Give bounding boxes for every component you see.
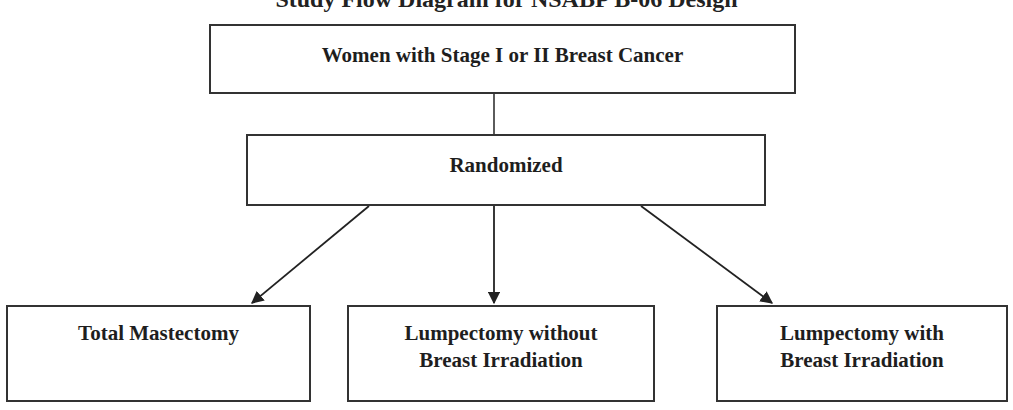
- edge-arrow-arm1: [252, 206, 369, 303]
- node-arm3-line2: Breast Irradiation: [780, 347, 944, 374]
- node-randomized-label: Randomized: [449, 152, 562, 179]
- node-arm-lumpectomy-without-irradiation: Lumpectomy without Breast Irradiation: [347, 305, 655, 402]
- edge-arrow-arm3: [641, 206, 772, 303]
- node-population: Women with Stage I or II Breast Cancer: [209, 24, 796, 94]
- node-arm1-line1: Total Mastectomy: [78, 320, 239, 347]
- node-arm-lumpectomy-with-irradiation: Lumpectomy with Breast Irradiation: [716, 305, 1008, 402]
- node-arm2-line2: Breast Irradiation: [404, 347, 597, 374]
- node-population-label: Women with Stage I or II Breast Cancer: [322, 42, 683, 69]
- node-arm-total-mastectomy: Total Mastectomy: [6, 305, 311, 402]
- node-arm3-line1: Lumpectomy with: [780, 320, 944, 347]
- node-arm2-line1: Lumpectomy without: [404, 320, 597, 347]
- node-randomized: Randomized: [246, 134, 766, 206]
